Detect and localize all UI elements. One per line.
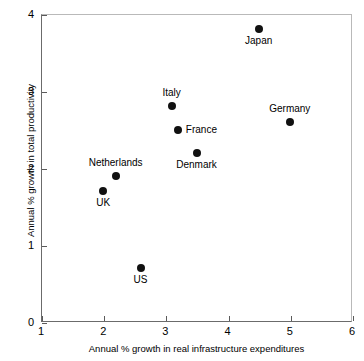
x-tick-label: 5 [278, 325, 302, 338]
data-point-label: Italy [162, 87, 180, 99]
data-point-label: Japan [245, 35, 272, 47]
data-point-label: Denmark [176, 159, 217, 171]
y-tick-label: 0 [18, 316, 34, 328]
data-point[interactable] [193, 149, 201, 157]
x-tick [104, 316, 105, 321]
x-tick [291, 316, 292, 321]
y-axis-title: Annual % growth in total productivity [25, 46, 36, 276]
x-tick-label: 2 [91, 325, 115, 338]
y-tick [42, 92, 47, 93]
data-point-label: Germany [269, 103, 310, 115]
x-tick [166, 316, 167, 321]
y-tick [42, 246, 47, 247]
data-point[interactable] [286, 118, 294, 126]
x-tick-label: 6 [340, 325, 364, 338]
data-point[interactable] [137, 264, 145, 272]
x-tick-label: 4 [216, 325, 240, 338]
x-tick [353, 316, 354, 321]
data-point-label: France [186, 124, 217, 136]
data-point-label: UK [96, 197, 110, 209]
data-point[interactable] [168, 102, 176, 110]
x-tick-label: 3 [153, 325, 177, 338]
y-tick [42, 169, 47, 170]
x-axis-title: Annual % growth in real infrastructure e… [41, 343, 352, 354]
y-tick-label: 4 [18, 8, 34, 20]
scatter-chart: 123456 01234 JapanGermanyItalyFranceDenm… [0, 0, 364, 361]
data-point[interactable] [112, 172, 120, 180]
y-tick [42, 15, 47, 16]
y-tick [42, 323, 47, 324]
x-tick [42, 316, 43, 321]
data-point[interactable] [174, 126, 182, 134]
data-point-label: Netherlands [89, 157, 143, 169]
x-tick [229, 316, 230, 321]
data-point-label: US [134, 274, 148, 286]
